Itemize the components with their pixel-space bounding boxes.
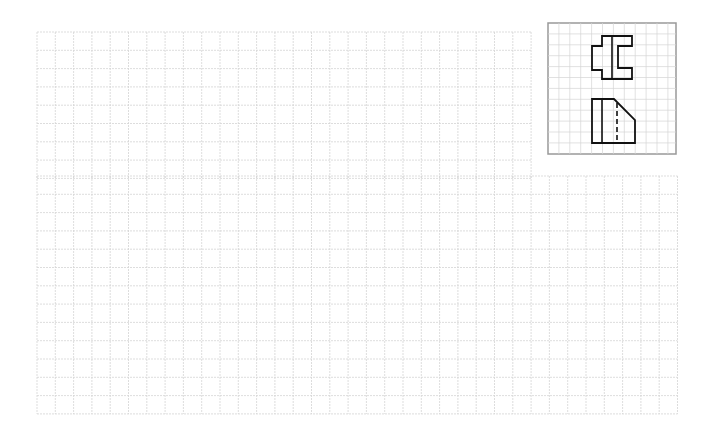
reference-views-box [548,23,676,154]
worksheet-canvas [0,0,715,443]
